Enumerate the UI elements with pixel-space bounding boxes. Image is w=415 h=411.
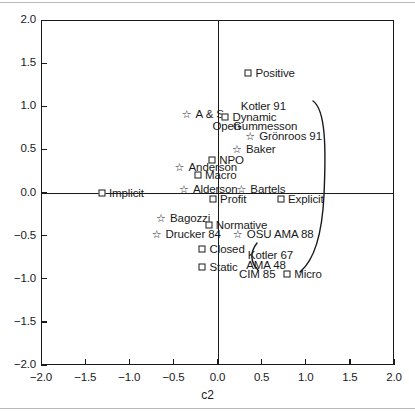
x-tick [217,359,218,365]
square-marker-icon [284,270,291,277]
y-tick [41,63,47,64]
data-point-label: OSU AMA 88 [247,228,314,240]
y-tick [41,106,47,107]
x-tick [394,359,395,365]
data-point-label: Explicit [288,193,324,205]
scan-rule-top [0,2,415,3]
plot-annotation: Gummesson [233,120,297,132]
x-axis-title: c2 [0,388,415,402]
data-point-label: Profit [220,193,246,205]
data-point-label: A & S [196,108,224,120]
star-marker-icon: ☆ [179,184,189,195]
plot-annotation: CIM 85 [239,268,275,280]
y-tick-label: −1.0 [2,272,36,284]
x-tick [349,359,350,365]
square-marker-icon [199,263,206,270]
data-point-label: Static [209,261,237,273]
y-tick-label: 2.0 [2,13,36,25]
x-tick [41,359,42,365]
y-tick-label: 0.5 [2,142,36,154]
star-marker-icon: ☆ [156,212,166,223]
x-tick-label: −1.5 [65,371,105,383]
data-point-label: Baker [246,143,276,155]
x-tick-label: −1.0 [109,371,149,383]
square-marker-icon [98,189,105,196]
y-tick [41,278,47,279]
star-marker-icon: ☆ [233,228,243,239]
scatter-plot-figure: −2.0−1.5−1.0−0.50.00.51.01.52.0−2.0−1.5−… [0,0,415,411]
x-tick [85,359,86,365]
data-point-label: Micro [294,268,322,280]
y-tick [41,321,47,322]
x-tick-label: 0.0 [198,371,238,383]
x-tick-label: 2.0 [374,371,414,383]
data-point-label: Bartels [250,183,285,195]
y-tick-label: −2.0 [2,358,36,370]
data-point-label: Implicit [109,187,144,199]
scan-rule-bottom [0,408,415,409]
x-tick [305,359,306,365]
x-tick [261,359,262,365]
y-tick-label: −0.5 [2,229,36,241]
y-tick [41,149,47,150]
y-tick-label: −1.5 [2,315,36,327]
star-marker-icon: ☆ [182,109,192,120]
y-tick [41,20,47,21]
data-point-label: Macro [205,169,236,181]
star-marker-icon: ☆ [175,161,185,172]
x-tick-label: 1.5 [330,371,370,383]
x-tick-label: −2.0 [21,371,61,383]
square-marker-icon [245,70,252,77]
x-tick [173,359,174,365]
x-tick-label: 0.5 [242,371,282,383]
x-tick-label: 1.0 [286,371,326,383]
y-tick-label: 0.0 [2,186,36,198]
x-tick-label: −0.5 [153,371,193,383]
x-tick [129,359,130,365]
square-marker-icon [210,196,217,203]
square-marker-icon [222,113,229,120]
y-tick [41,365,47,366]
data-point-label: Closed [209,243,244,255]
square-marker-icon [278,196,285,203]
data-point-label: Positive [255,67,294,79]
square-marker-icon [195,172,202,179]
data-point-label: Drucker 84 [166,228,221,240]
square-marker-icon [199,246,206,253]
y-tick [41,192,47,193]
y-tick [41,235,47,236]
plot-annotation: Kotler 91 [241,100,286,112]
star-marker-icon: ☆ [152,228,162,239]
y-tick-label: 1.5 [2,56,36,68]
y-tick-label: 1.0 [2,99,36,111]
